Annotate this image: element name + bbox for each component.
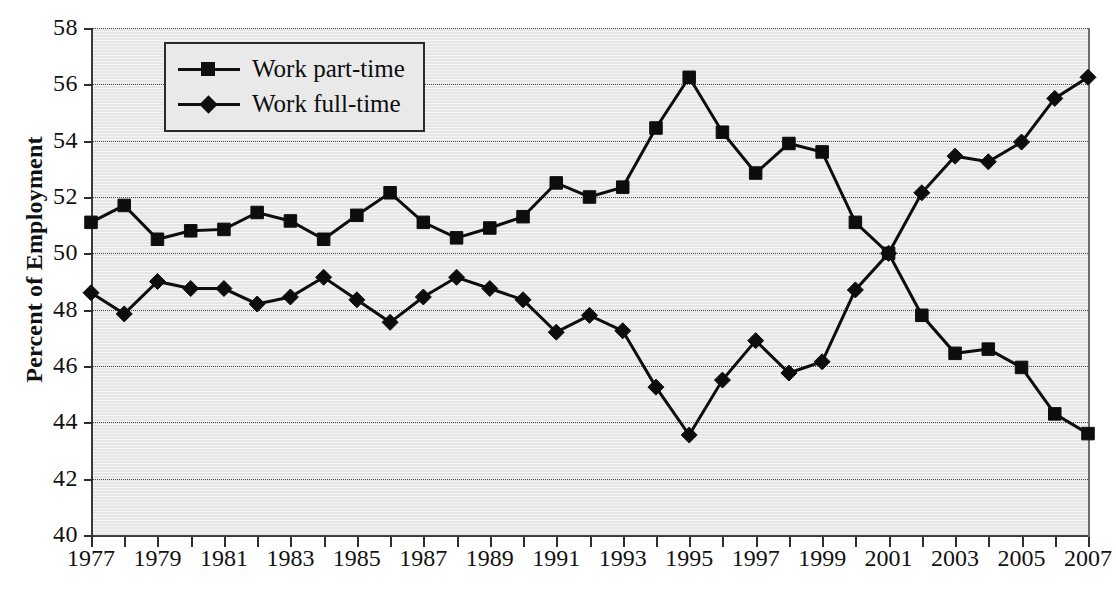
legend-marker-square-icon [178,59,240,79]
gridline [91,422,1088,423]
x-axis-tick [191,537,193,547]
y-axis-tick [84,141,93,143]
x-axis-tick [922,537,924,547]
y-axis-tick [84,310,93,312]
x-axis-tick-label: 1983 [266,545,314,571]
x-axis-tick [324,537,326,547]
x-axis-tick-label: 2007 [1064,545,1112,571]
gridline [91,366,1088,367]
x-axis-tick-label: 1997 [732,545,780,571]
x-axis-tick [789,537,791,547]
x-axis-tick [656,537,658,547]
gridline [91,253,1088,254]
x-axis-tick [988,537,990,547]
plot-right-border [1088,28,1090,537]
x-axis-tick-label: 1995 [665,545,713,571]
x-axis-tick-label: 1993 [599,545,647,571]
x-axis-tick [523,537,525,547]
gridline [91,28,1088,29]
x-axis-tick-label: 1987 [399,545,447,571]
legend-label-part-time: Work part-time [252,56,405,81]
legend-item-work-full-time: Work full-time [178,86,405,121]
x-axis-tick-label: 2005 [998,545,1046,571]
y-axis-tick [84,28,93,30]
y-axis-tick-label: 40 [20,522,78,546]
x-axis-tick [722,537,724,547]
x-axis-tick-label: 1985 [333,545,381,571]
x-axis-tick-label: 2003 [931,545,979,571]
gridline [91,479,1088,480]
x-axis-tick-label: 1979 [133,545,181,571]
legend: Work part-time Work full-time [164,42,425,132]
legend-item-work-part-time: Work part-time [178,51,405,86]
gridline [91,535,1088,536]
chart-container: 40424446485052545658 1977197919811983198… [0,0,1116,596]
y-axis-title: Percent of Employment [21,60,48,460]
legend-label-full-time: Work full-time [252,91,401,116]
x-axis-tick-label: 2001 [865,545,913,571]
x-axis-tick-label: 1989 [466,545,514,571]
x-axis-tick [124,537,126,547]
y-axis-tick-label: 42 [20,466,78,490]
gridline [91,310,1088,311]
y-axis-tick [84,422,93,424]
x-axis-tick [390,537,392,547]
y-axis-tick-label: 58 [20,15,78,39]
x-axis-tick [855,537,857,547]
y-axis-tick [84,479,93,481]
y-axis-tick [84,253,93,255]
legend-marker-diamond-icon [178,94,240,114]
y-axis-tick [84,366,93,368]
y-axis-tick [84,197,93,199]
y-axis-tick [84,84,93,86]
x-axis-tick [457,537,459,547]
x-axis-tick-label: 1981 [200,545,248,571]
x-axis-tick-label: 1999 [798,545,846,571]
x-axis-tick-label: 1991 [532,545,580,571]
x-axis-tick-label: 1977 [67,545,115,571]
gridline [91,141,1088,142]
x-axis-tick [257,537,259,547]
gridline [91,197,1088,198]
x-axis-tick [1055,537,1057,547]
x-axis-tick [590,537,592,547]
